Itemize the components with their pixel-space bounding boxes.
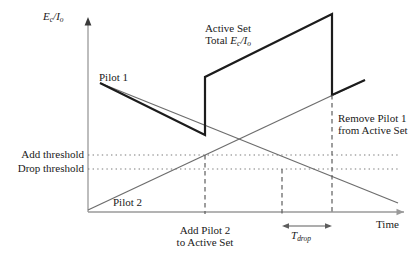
pilot-1-curve xyxy=(100,83,398,203)
t-drop-interval-group xyxy=(282,223,332,229)
pilot-1-label: Pilot 1 xyxy=(99,71,128,83)
x-axis-label: Time xyxy=(376,218,399,230)
pilot-2-label: Pilot 2 xyxy=(113,196,142,208)
t-drop-label-sub: drop xyxy=(297,234,311,243)
t-drop-arrowhead-left xyxy=(282,223,289,229)
remove-pilot1-annotation: Remove Pilot 1 from Active Set xyxy=(338,112,408,137)
remove-pilot1-annotation-line2: from Active Set xyxy=(338,124,408,136)
drop-threshold-label: Drop threshold xyxy=(0,162,84,174)
active-set-total-label-line1: Active Set xyxy=(175,22,281,34)
active-set-total-label-total: Total xyxy=(205,34,230,46)
add-pilot2-annotation-line1: Add Pilot 2 xyxy=(152,224,258,236)
x-axis-arrowhead xyxy=(397,209,405,215)
threshold-lines-group xyxy=(88,155,398,169)
y-axis-label-ec: E xyxy=(43,10,50,22)
active-set-total-label-sub-o: o xyxy=(247,39,251,48)
y-axis-label: Ec/Io xyxy=(43,10,64,24)
add-pilot2-annotation-line2: to Active Set xyxy=(152,236,258,248)
add-threshold-label: Add threshold xyxy=(0,148,84,160)
y-axis-label-sub-o: o xyxy=(60,15,64,24)
pilot-handoff-diagram: Ec/Io Time Pilot 1 Pilot 2 Active Set To… xyxy=(0,0,419,261)
t-drop-arrowhead-right xyxy=(325,223,332,229)
t-drop-label: Tdrop xyxy=(291,229,311,243)
active-set-total-label-line2: Total Ec/Io xyxy=(175,34,281,48)
active-set-total-label: Active Set Total Ec/Io xyxy=(175,22,281,49)
add-pilot2-annotation: Add Pilot 2 to Active Set xyxy=(152,224,258,249)
pilot-2-curve xyxy=(88,80,365,210)
remove-pilot1-annotation-line1: Remove Pilot 1 xyxy=(338,112,408,124)
y-axis-arrowhead xyxy=(85,17,92,26)
